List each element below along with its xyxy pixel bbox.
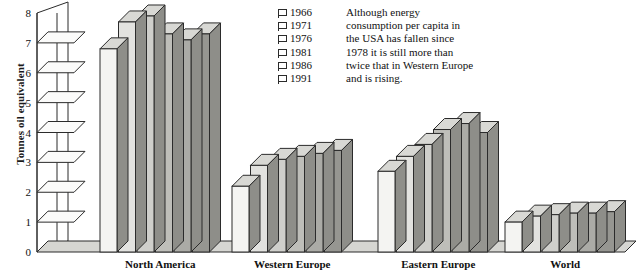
legend-swatch-icon: [278, 35, 287, 42]
bar-chart: Tonnes oil equivalent 876543210 1966 197…: [0, 0, 641, 277]
bar: [100, 38, 128, 252]
legend-swatch-icon: [278, 9, 287, 16]
bar: [505, 211, 533, 252]
legend-item: 1976: [278, 32, 336, 45]
category-label-north-america: North America: [90, 258, 230, 270]
annotation-line: Although energy: [346, 6, 526, 19]
legend-label: 1981: [290, 47, 312, 58]
legend-item: 1981: [278, 46, 336, 59]
legend-item: 1966: [278, 6, 336, 19]
legend-item: 1971: [278, 19, 336, 32]
legend-item: 1986: [278, 59, 336, 72]
legend-annotation: Although energy consumption per capita i…: [346, 6, 526, 85]
category-label-world: World: [495, 258, 635, 270]
legend-label: 1976: [290, 33, 312, 44]
annotation-line: the USA has fallen since: [346, 32, 526, 45]
annotation-line: 1978 it is still more than: [346, 46, 526, 59]
annotation-line: consumption per capita in: [346, 19, 526, 32]
legend-swatch-icon: [278, 75, 287, 82]
annotation-line: and is rising.: [346, 72, 526, 85]
legend-swatch-icon: [278, 22, 287, 29]
legend-item: 1991: [278, 72, 336, 85]
bar: [378, 160, 406, 252]
legend: 1966 1971 1976 1981 1986 1991: [278, 6, 526, 85]
legend-keys: 1966 1971 1976 1981 1986 1991: [278, 6, 336, 85]
annotation-line: twice that in Western Europe: [346, 59, 526, 72]
legend-label: 1991: [290, 73, 312, 84]
legend-swatch-icon: [278, 62, 287, 69]
bar: [232, 175, 260, 252]
category-label-eastern-europe: Eastern Europe: [368, 258, 508, 270]
category-label-western-europe: Western Europe: [222, 258, 362, 270]
legend-label: 1986: [290, 60, 312, 71]
legend-swatch-icon: [278, 49, 287, 56]
legend-label: 1971: [290, 20, 312, 31]
legend-label: 1966: [290, 7, 312, 18]
